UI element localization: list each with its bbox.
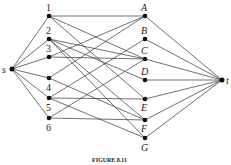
node-4: 4 — [46, 82, 51, 93]
node-E: E — [140, 102, 147, 113]
node-t: t — [226, 75, 229, 86]
node-B: B — [141, 25, 147, 36]
node-2: 2 — [46, 25, 51, 36]
node-G: G — [141, 142, 148, 153]
node-6: 6 — [46, 122, 51, 133]
node-A: A — [140, 2, 148, 13]
node-s: s — [2, 64, 6, 75]
caption: FIGURE 8.11 — [92, 157, 127, 163]
network-flow-diagram: s t 1 2 3 4 5 6 A B C D E F G FIGURE 8.1… — [0, 0, 231, 165]
node-D: D — [140, 66, 149, 77]
node-C: C — [141, 45, 148, 56]
node-3: 3 — [46, 43, 51, 54]
node-5: 5 — [46, 102, 51, 113]
node-F: F — [140, 123, 148, 134]
node-1: 1 — [46, 2, 51, 13]
